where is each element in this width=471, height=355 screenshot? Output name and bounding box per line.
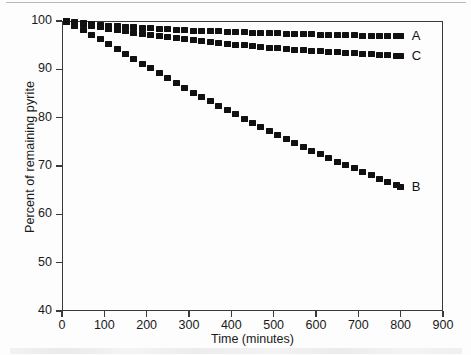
data-point-marker-a xyxy=(351,32,358,38)
data-point-marker-b xyxy=(342,162,349,168)
x-tick-mark xyxy=(400,311,401,317)
data-point-marker-c xyxy=(257,44,264,50)
data-point-marker-c xyxy=(359,51,366,57)
data-point-marker-b xyxy=(156,70,163,76)
data-point-marker-c xyxy=(207,39,214,45)
data-point-marker-b xyxy=(122,51,129,57)
data-point-marker-b xyxy=(105,41,112,47)
data-point-marker-a xyxy=(215,28,222,34)
data-point-marker-a xyxy=(198,28,205,34)
data-point-marker-a xyxy=(257,30,264,36)
data-point-marker-a xyxy=(274,30,281,36)
x-tick-label: 900 xyxy=(423,320,463,330)
x-tick-label: 200 xyxy=(127,320,167,330)
data-point-marker-a xyxy=(342,32,349,38)
data-point-marker-c xyxy=(198,38,205,44)
data-point-marker-b xyxy=(291,140,298,146)
data-point-marker-b xyxy=(351,165,358,171)
data-point-marker-b xyxy=(224,107,231,113)
data-point-marker-b xyxy=(266,128,273,134)
data-point-marker-b xyxy=(139,61,146,67)
data-point-marker-b xyxy=(317,151,324,157)
data-point-marker-a xyxy=(164,26,171,32)
plot-area xyxy=(62,21,443,311)
data-point-marker-a xyxy=(359,33,366,39)
y-tick-label: 50 xyxy=(18,257,52,267)
y-tick-label: 60 xyxy=(18,208,52,218)
figure-page: Percent of remaining pyrite Time (minute… xyxy=(0,0,471,355)
data-point-marker-c xyxy=(397,53,404,59)
x-tick-mark xyxy=(61,311,62,317)
data-point-marker-a xyxy=(317,32,324,38)
data-point-marker-c xyxy=(105,26,112,32)
data-point-marker-c xyxy=(173,35,180,41)
data-point-marker-b xyxy=(181,85,188,91)
data-point-marker-c xyxy=(368,51,375,57)
y-tick-label: 80 xyxy=(18,112,52,122)
data-point-marker-c xyxy=(249,43,256,49)
data-point-marker-a xyxy=(224,29,231,35)
x-tick-label: 400 xyxy=(211,320,251,330)
series-label-c: C xyxy=(412,49,421,62)
data-point-marker-a xyxy=(397,33,404,39)
x-tick-mark xyxy=(358,311,359,317)
data-point-marker-c xyxy=(283,46,290,52)
data-point-marker-c xyxy=(325,49,332,55)
data-point-marker-b xyxy=(207,98,214,104)
data-point-marker-a xyxy=(300,31,307,37)
data-point-marker-a xyxy=(308,31,315,37)
data-point-marker-c xyxy=(215,40,222,46)
x-axis-title: Time (minutes) xyxy=(62,332,443,346)
data-point-marker-b xyxy=(164,75,171,81)
data-point-marker-b xyxy=(130,56,137,62)
data-point-marker-b xyxy=(300,144,307,150)
data-point-marker-b xyxy=(384,179,391,185)
y-tick-label: 90 xyxy=(18,63,52,73)
data-point-marker-b xyxy=(334,159,341,165)
data-point-marker-c xyxy=(291,47,298,53)
scan-artifact-bottom xyxy=(10,348,462,354)
data-point-marker-b xyxy=(274,132,281,138)
data-point-marker-c xyxy=(139,31,146,37)
x-tick-label: 500 xyxy=(254,320,294,330)
data-point-marker-a xyxy=(190,28,197,34)
data-point-marker-b xyxy=(147,65,154,71)
data-point-marker-c xyxy=(130,30,137,36)
data-point-marker-c xyxy=(88,23,95,29)
data-point-marker-c xyxy=(317,48,324,54)
series-label-b: B xyxy=(412,180,421,193)
data-point-marker-a xyxy=(368,33,375,39)
page-top-rule xyxy=(6,2,466,3)
data-point-marker-b xyxy=(283,136,290,142)
data-point-marker-a xyxy=(232,29,239,35)
data-point-marker-a xyxy=(291,31,298,37)
data-point-marker-b xyxy=(376,176,383,182)
data-point-marker-c xyxy=(274,45,281,51)
x-tick-mark xyxy=(146,311,147,317)
data-point-marker-c xyxy=(342,50,349,56)
data-point-marker-c xyxy=(384,52,391,58)
data-point-marker-c xyxy=(122,28,129,34)
data-point-marker-a xyxy=(249,30,256,36)
data-point-marker-c xyxy=(190,37,197,43)
data-point-marker-b xyxy=(80,27,87,33)
data-point-marker-a xyxy=(376,33,383,39)
x-tick-mark xyxy=(188,311,189,317)
data-point-marker-a xyxy=(181,27,188,33)
data-point-marker-b xyxy=(232,111,239,117)
data-point-marker-b xyxy=(114,46,121,52)
data-point-marker-b xyxy=(368,172,375,178)
data-point-marker-b xyxy=(241,116,248,122)
data-point-marker-c xyxy=(224,41,231,47)
data-point-marker-a xyxy=(384,33,391,39)
y-tick-label: 100 xyxy=(18,15,52,25)
data-point-marker-b xyxy=(88,32,95,38)
x-tick-label: 800 xyxy=(381,320,421,330)
data-point-marker-b xyxy=(198,94,205,100)
data-point-marker-b xyxy=(97,36,104,42)
data-point-marker-a xyxy=(139,25,146,31)
data-point-marker-a xyxy=(334,32,341,38)
x-tick-label: 100 xyxy=(84,320,124,330)
data-point-marker-c xyxy=(300,47,307,53)
data-point-marker-a xyxy=(325,32,332,38)
